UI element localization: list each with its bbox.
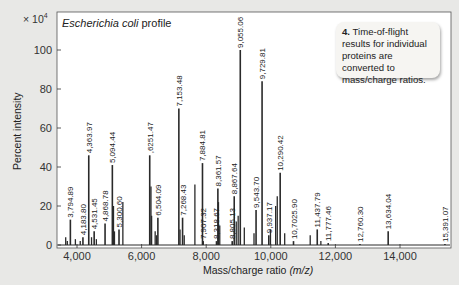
x-tick-label: 12,000	[319, 250, 353, 262]
peak-label: 7,907.32	[199, 207, 208, 239]
peak-label: 9,543.70	[252, 176, 261, 208]
x-tick-label: 10,000	[254, 250, 288, 262]
title-species: Escherichia coli	[62, 17, 138, 29]
y-tick-label: 80	[40, 83, 52, 95]
peak-label: 4,868.78	[101, 190, 110, 222]
peak-label: 15,391.07	[441, 206, 450, 242]
annotation-text: Time-of-flight results for individual pr…	[342, 26, 427, 85]
peak-label: 10,290.42	[276, 135, 285, 171]
peak-label: 5,300.60	[115, 196, 124, 228]
x-axis-unit: (m/z)	[289, 264, 313, 276]
peak-label: 12,760.30	[356, 206, 365, 242]
peak-label: 9,937.17	[265, 202, 274, 234]
peak-label: 6,504.09	[154, 184, 163, 216]
x-tick-label: 8,000	[192, 250, 220, 262]
title-suffix: profile	[138, 17, 171, 29]
y-axis-label: Percent intensity	[11, 92, 23, 170]
peak-label: 7,153.48	[175, 75, 184, 107]
peak-label: 4,183.80	[79, 204, 88, 236]
peak-label: 7,268.43	[179, 184, 188, 216]
y-scale-exponent: 4	[44, 12, 48, 19]
y-tick-label: 60	[40, 122, 52, 134]
peak-label: 8,867.64	[230, 163, 239, 195]
y-tick-label: 0	[46, 239, 52, 251]
annotation-step-number: 4.	[342, 26, 350, 37]
x-tick-label: 4,000	[63, 250, 91, 262]
peak-label: 11,777.46	[324, 206, 333, 242]
y-scale-text: × 10	[23, 13, 44, 25]
peak-label: 10,7025.90	[290, 199, 299, 240]
peak-label: 11,437.79	[313, 192, 322, 228]
peak-label: 4,363.97	[85, 122, 94, 154]
peak-label: 9,055.06	[236, 16, 245, 48]
x-tick-label: 14,000	[383, 250, 417, 262]
x-axis-label-text: Mass/charge ratio	[203, 264, 286, 276]
y-scale-multiplier: × 104	[23, 12, 48, 25]
chart-title: Escherichia coli profile	[62, 17, 171, 29]
peak-label: 13,634.04	[384, 193, 393, 229]
peak-label: 7,884.81	[198, 129, 207, 161]
peak-label: 5,094.44	[108, 131, 117, 163]
peak-label: 4,531.45	[90, 198, 99, 230]
y-tick-label: 40	[40, 161, 52, 173]
x-axis-label: Mass/charge ratio (m/z)	[203, 264, 313, 276]
y-tick-label: 20	[40, 200, 52, 212]
peak-label: 3,794.89	[66, 186, 75, 218]
y-tick-label: 100	[34, 44, 52, 56]
peak-label: ,6251.47	[146, 122, 155, 154]
x-tick-label: 6,000	[128, 250, 156, 262]
peak-label: 8,805.13	[228, 207, 237, 239]
peak-label: 8,361.57	[214, 155, 223, 187]
annotation-callout: 4. Time-of-flight results for individual…	[336, 22, 440, 78]
peak-label: 9,729.81	[258, 48, 267, 80]
peak-label: 8,318.67	[212, 207, 221, 239]
